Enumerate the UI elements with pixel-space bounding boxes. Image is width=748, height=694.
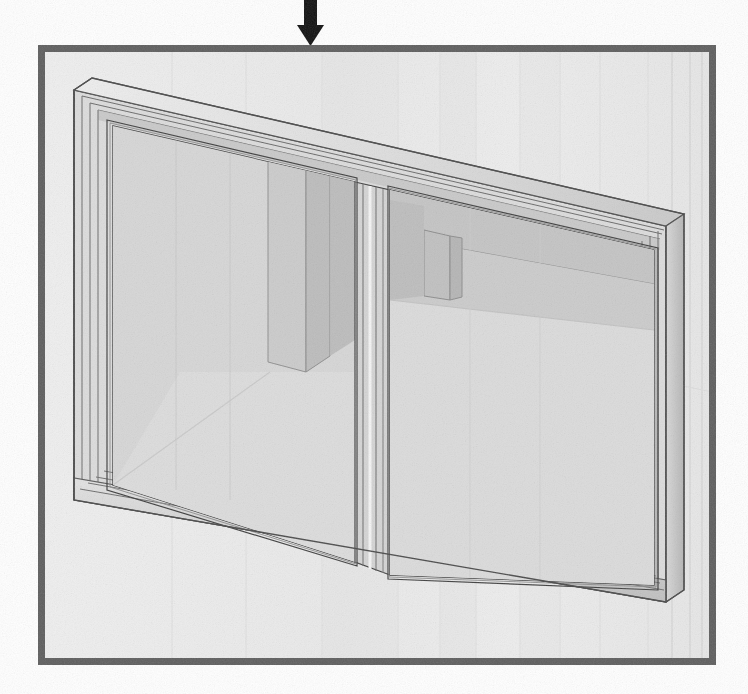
illustration-stage (0, 0, 748, 694)
window-assembly-figure (0, 0, 748, 694)
scan-grain-overlay (0, 0, 748, 694)
